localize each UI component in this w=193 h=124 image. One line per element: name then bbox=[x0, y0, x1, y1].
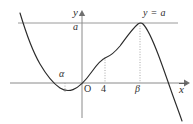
y-axis-label: y bbox=[73, 7, 78, 18]
x-tick-label-four: 4 bbox=[101, 84, 106, 94]
cubic-curve-path bbox=[20, 13, 182, 121]
y-tick-label-a: a bbox=[73, 22, 78, 32]
graph-canvas bbox=[0, 0, 193, 124]
x-axis-label: x bbox=[179, 84, 184, 95]
x-axis-label-overbar bbox=[179, 83, 187, 84]
origin-label: O bbox=[84, 84, 91, 94]
line-equation-label: y = a bbox=[143, 8, 166, 18]
y-axis-arrow-icon bbox=[79, 10, 85, 16]
x-root-label-alpha: α bbox=[59, 69, 64, 79]
graph-figure: y x a y = a α O 4 β bbox=[0, 0, 193, 124]
x-tick-label-beta: β bbox=[135, 84, 140, 94]
